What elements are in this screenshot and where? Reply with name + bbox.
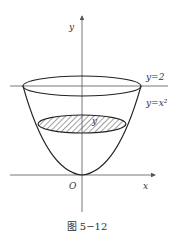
parabola-label: y=x²	[145, 98, 168, 108]
origin-label: O	[69, 181, 77, 191]
figure-caption: 图 5−12	[67, 221, 108, 232]
line-label: y=2	[145, 72, 165, 82]
x-axis-label: x	[143, 181, 148, 191]
cross-section-ellipse	[38, 115, 126, 133]
section-label: y	[91, 116, 98, 126]
diagram-canvas: y y=2 y=x² y O x 图 5−12	[0, 0, 174, 238]
y-axis-label: y	[68, 22, 75, 32]
